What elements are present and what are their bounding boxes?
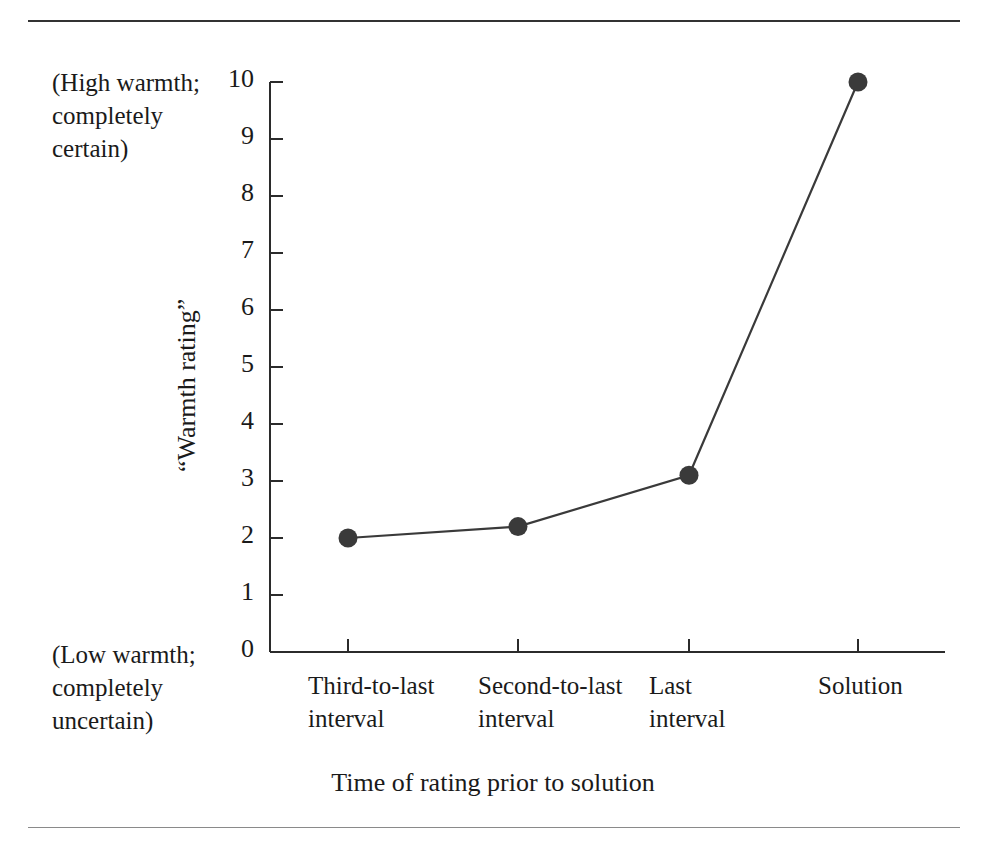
chart-axes — [270, 82, 945, 652]
y-tick-label: 0 — [214, 634, 254, 664]
y-axis-title: “Warmth rating” — [172, 299, 202, 472]
x-tick-label: Second-to-last interval — [478, 670, 678, 735]
y-tick-label: 5 — [214, 349, 254, 379]
x-axis-title: Time of rating prior to solution — [0, 768, 986, 798]
data-point-marker — [849, 73, 868, 92]
y-tick-label: 10 — [214, 64, 254, 94]
data-point-marker — [339, 529, 358, 548]
series-line — [348, 82, 858, 538]
y-tick-label: 8 — [214, 178, 254, 208]
data-point-marker — [680, 466, 699, 485]
y-tick-label: 3 — [214, 463, 254, 493]
y-tick-label: 4 — [214, 406, 254, 436]
y-tick-label: 9 — [214, 121, 254, 151]
chart-tick-marks — [270, 82, 858, 652]
y-tick-label: 7 — [214, 235, 254, 265]
data-point-marker — [509, 517, 528, 536]
y-tick-label: 1 — [214, 577, 254, 607]
x-tick-label: Solution — [818, 670, 986, 703]
warmth-rating-series — [339, 73, 868, 548]
y-tick-label: 2 — [214, 520, 254, 550]
y-tick-label: 6 — [214, 292, 254, 322]
